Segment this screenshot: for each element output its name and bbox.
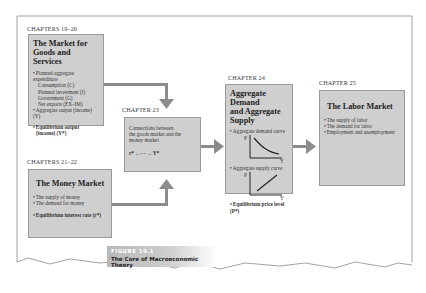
labor-market-title: The Labor Market <box>324 102 400 111</box>
money-emphasis: Equilibrium interest rate (r*) <box>33 212 107 218</box>
ad-as-emphasis: Equilibrium price level (P*) <box>230 201 288 213</box>
labor-market-chapter: CHAPTER 25 <box>319 79 356 86</box>
ad-curve-icon <box>249 134 283 160</box>
goods-market-title-2: Goods and Services <box>33 48 99 66</box>
ad-axis-y: Y <box>280 158 284 164</box>
labor-market-box: The Labor Market The supply of labor The… <box>319 90 405 186</box>
connections-box: Connections between the goods market and… <box>124 117 201 172</box>
goods-emphasis-2: (income) (Y*) <box>33 130 99 136</box>
ad-axis-p: P <box>244 135 247 141</box>
goods-item-5: Aggregate output (income) (Y) <box>33 107 99 119</box>
labor-item-2: Employment and unemployment <box>324 129 400 135</box>
figure-tag: FIGURE 19.1 <box>111 248 213 254</box>
goods-market-chapter: CHAPTERS 19–20 <box>27 25 77 32</box>
money-market-chapter: CHAPTERS 21–22 <box>27 158 77 165</box>
figure-caption: FIGURE 19.1 The Core of Macroeconomic Th… <box>107 246 217 267</box>
connections-relation: r* ←- - → Y* <box>129 150 196 156</box>
as-axis-p: P <box>244 172 247 178</box>
money-market-title: The Money Market <box>33 179 107 188</box>
connections-chapter: CHAPTER 23 <box>122 106 159 113</box>
connections-text-3: money market <box>129 137 196 143</box>
ad-as-box: Aggregate Demand and Aggregate Supply Ag… <box>225 84 293 194</box>
as-axis-y: Y <box>280 195 284 201</box>
goods-item-0: Planned aggregate expenditure <box>33 70 99 82</box>
as-curve-graph: P Y <box>230 171 288 201</box>
goods-market-title-1: The Market for <box>33 39 99 48</box>
ad-as-chapter: CHAPTER 24 <box>228 74 265 81</box>
goods-market-box: The Market for Goods and Services Planne… <box>28 34 104 126</box>
money-market-box: The Money Market The supply of money The… <box>28 169 112 238</box>
ad-as-title-1: Aggregate Demand <box>230 89 288 107</box>
ad-as-title-2: and Aggregate Supply <box>230 107 288 125</box>
ad-curve-graph: P Y <box>230 134 288 165</box>
money-item-1: The demand for money <box>33 200 107 206</box>
figure-title: The Core of Macroeconomic Theory <box>111 256 213 268</box>
as-curve-icon <box>249 171 283 197</box>
